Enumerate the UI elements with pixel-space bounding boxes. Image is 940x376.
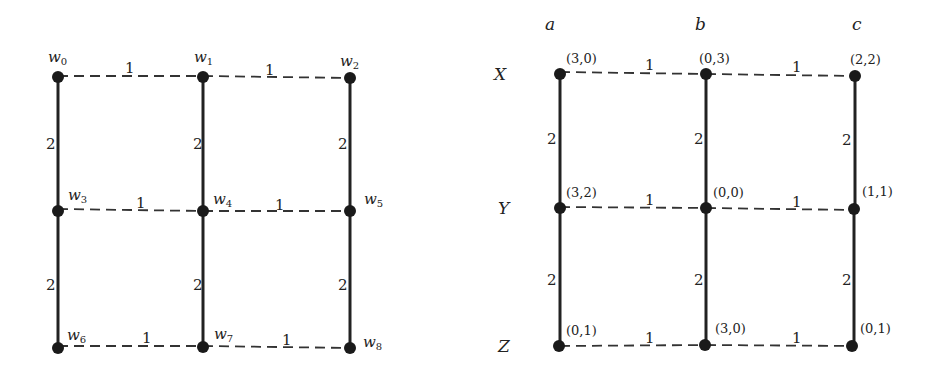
weight-label: 2	[694, 130, 704, 148]
weight-label: 2	[338, 135, 348, 153]
node-w8	[344, 342, 356, 354]
node-w7	[197, 341, 209, 353]
weight-label: 2	[694, 271, 704, 289]
node-xb	[700, 68, 712, 80]
node-label-w6: w6	[67, 326, 86, 345]
node-label-w2: w2	[340, 52, 359, 71]
edge-w7-w8	[203, 346, 350, 348]
weight-label: 1	[125, 59, 135, 77]
weight-label: 2	[547, 271, 557, 289]
weight-label: 1	[792, 329, 802, 347]
weight-label: 2	[842, 271, 852, 289]
weight-label: 2	[46, 135, 56, 153]
column-label-c: c	[852, 14, 862, 34]
payoff-zc: (0,1)	[860, 321, 891, 336]
node-label-w1: w1	[194, 48, 213, 67]
node-yb	[700, 202, 712, 214]
edge-za-zb	[560, 345, 706, 346]
left-graph: 1 1 1 1 1 1 2 2 2 2 2 2 w0 w1 w2 w3 w4 w…	[46, 48, 383, 354]
edge-ya-yb	[560, 207, 706, 208]
node-label-w8: w8	[363, 333, 382, 352]
payoff-ya: (3,2)	[566, 185, 597, 200]
payoff-zb: (3,0)	[715, 321, 746, 336]
weight-label: 1	[275, 196, 285, 214]
node-w1	[197, 71, 209, 83]
column-label-b: b	[695, 14, 706, 34]
diagram-canvas: 1 1 1 1 1 1 2 2 2 2 2 2 w0 w1 w2 w3 w4 w…	[0, 0, 940, 376]
node-ya	[554, 202, 566, 214]
weight-label: 1	[645, 191, 655, 209]
payoff-xc: (2,2)	[850, 52, 881, 67]
weight-label: 1	[645, 56, 655, 74]
weight-label: 1	[282, 331, 292, 349]
weight-label: 2	[193, 135, 203, 153]
weight-label: 1	[265, 61, 275, 79]
weight-label: 2	[46, 276, 56, 294]
weight-label: 2	[193, 276, 203, 294]
node-w0	[52, 71, 64, 83]
node-label-w3: w3	[68, 186, 87, 205]
weight-label: 1	[792, 58, 802, 76]
payoff-yb: (0,0)	[713, 185, 744, 200]
node-yc	[848, 203, 860, 215]
row-label-z: Z	[497, 336, 511, 356]
edge-w3-w4	[58, 209, 203, 211]
weight-label: 2	[547, 130, 557, 148]
weight-label: 1	[142, 329, 152, 347]
node-label-w7: w7	[214, 325, 233, 344]
edge-xa-xb	[560, 72, 706, 74]
row-label-x: X	[492, 64, 507, 84]
weight-label: 1	[136, 194, 146, 212]
edge-xb-xc	[706, 74, 855, 76]
row-label-y: Y	[498, 198, 511, 218]
payoff-xa: (3,0)	[566, 51, 597, 66]
weight-label: 2	[842, 131, 852, 149]
payoff-xb: (0,3)	[699, 51, 730, 66]
node-w6	[52, 342, 64, 354]
column-label-a: a	[545, 14, 555, 34]
node-za	[553, 340, 565, 352]
node-w2	[344, 72, 356, 84]
node-w3	[52, 205, 64, 217]
weight-label: 1	[792, 193, 802, 211]
edge-zb-zc	[706, 345, 854, 346]
edge-yb-yc	[706, 208, 855, 210]
weight-label: 2	[338, 276, 348, 294]
node-zb	[699, 339, 711, 351]
node-zc	[846, 340, 858, 352]
node-w4	[197, 205, 209, 217]
node-xa	[554, 68, 566, 80]
weight-label: 1	[645, 329, 655, 347]
right-graph: a b c X Y Z 1 1 1 1 1 1 2 2 2 2 2 2	[492, 14, 893, 356]
payoff-za: (0,1)	[566, 323, 597, 338]
edge-w1-w2	[203, 76, 350, 78]
payoff-yc: (1,1)	[862, 184, 893, 199]
node-label-w0: w0	[48, 48, 67, 67]
node-w5	[344, 205, 356, 217]
node-label-w4: w4	[213, 190, 232, 209]
node-label-w5: w5	[364, 190, 383, 209]
node-xc	[849, 70, 861, 82]
